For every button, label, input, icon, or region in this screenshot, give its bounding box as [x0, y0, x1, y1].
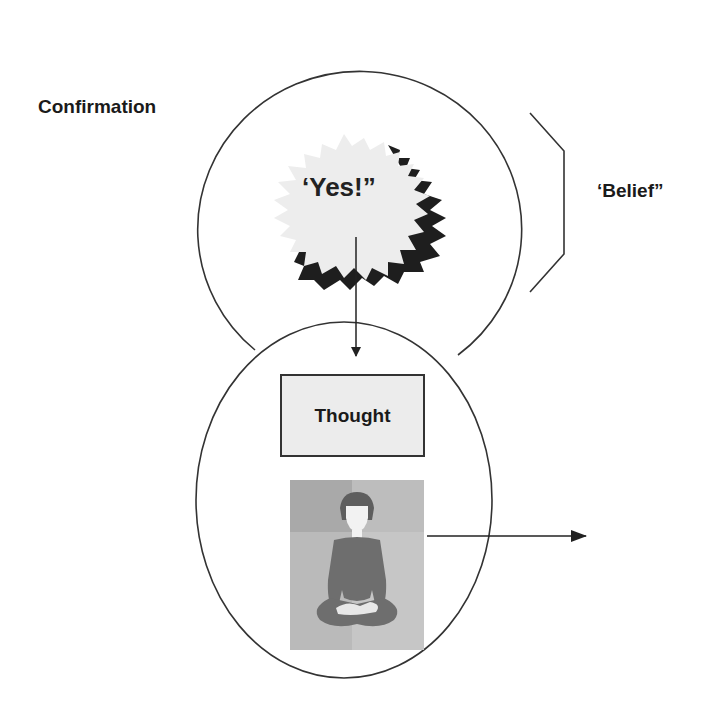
- figure-body: [328, 537, 386, 608]
- confirmation-label: Confirmation: [38, 96, 156, 118]
- thought-box: Thought: [280, 374, 425, 457]
- belief-label: ‘Belief”: [597, 180, 664, 202]
- belief-bracket: [530, 113, 564, 292]
- thought-label: Thought: [315, 405, 391, 427]
- meditation-image: [290, 480, 424, 650]
- yes-label: ‘Yes!”: [302, 172, 376, 203]
